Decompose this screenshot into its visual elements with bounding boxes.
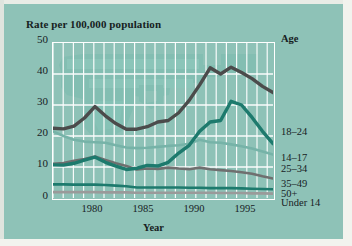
legend-label-25-34: 25–34	[281, 163, 307, 174]
series-line-25-34	[53, 131, 273, 154]
x-tick-1980: 1980	[72, 203, 112, 214]
y-tick-0: 0	[18, 190, 48, 200]
legend-header: Age	[281, 33, 299, 44]
series-line-under-14	[53, 192, 273, 194]
screenshot-root: Rate per 100,000 population Age 50 40 30…	[0, 0, 352, 246]
legend-label-under-14: Under 14	[281, 197, 320, 208]
chart-svg	[53, 43, 273, 198]
x-axis-title: Year	[143, 222, 164, 233]
plot-area	[52, 42, 275, 200]
legend-label-18-24: 18–24	[281, 126, 307, 137]
chart-panel: Rate per 100,000 population Age 50 40 30…	[4, 4, 343, 239]
series-line-50-	[53, 184, 273, 189]
y-tick-40: 40	[18, 65, 48, 75]
x-tick-1995: 1995	[225, 203, 265, 214]
x-tick-1990: 1990	[174, 203, 214, 214]
x-tick-1985: 1985	[123, 203, 163, 214]
handgun-watermark-icon	[59, 54, 258, 137]
y-tick-50: 50	[18, 34, 48, 44]
y-axis-labels: 50 40 30 20 10 0	[16, 4, 48, 246]
y-tick-10: 10	[18, 158, 48, 168]
page-edge-top	[0, 0, 352, 4]
page-edge-bottom	[0, 239, 352, 246]
page-edge-left	[0, 0, 4, 246]
page-edge-right	[343, 0, 352, 246]
y-tick-30: 30	[18, 96, 48, 106]
y-tick-20: 20	[18, 127, 48, 137]
legend-label-14-17: 14–17	[281, 152, 307, 163]
